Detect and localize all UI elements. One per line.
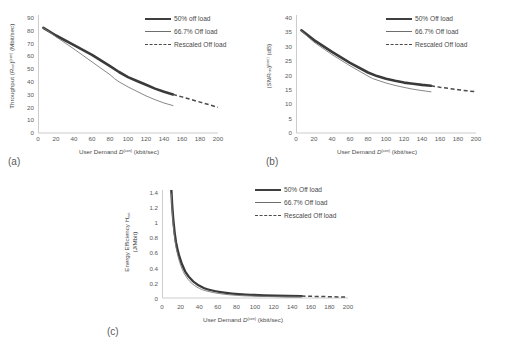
panel-b: (SNRnet)(con) (dB) 40 35 30 25 20 15 10 … [258,0,510,175]
legend-label: Rescaled Off load [174,41,226,48]
legend-item: 66.7% Off load [386,25,467,38]
panel-a: Throughput (Rnet)(con) (Mbit/sec) 90 80 … [0,0,250,175]
panel-b-y-axis-label: (SNRnet)(con) (dB) [265,26,273,106]
legend-item: 50% Off load [386,12,467,25]
panel-b-x-axis-label: User Demand D(con) (kbit/sec) [272,148,482,155]
panel-a-x-axis-label: User Demand D(con) (kbit/sec) [14,148,224,155]
legend-item: 66.7% Off load [255,196,336,209]
panel-a-legend: 50% off load 66.7% Off load Rescaled Off… [145,12,226,51]
panel-b-legend: 50% Off load 66.7% Off load Rescaled Off… [386,12,467,51]
panel-a-y-axis-label: Throughput (Rnet)(con) (Mbit/sec) [8,16,16,116]
legend-label: 66.7% Off load [415,28,459,35]
legend-key-thick-solid-icon [255,189,281,191]
legend-label: 66.7% Off load [174,28,218,35]
legend-key-thin-solid-icon [386,31,412,32]
panel-b-label: (b) [266,156,278,167]
legend-label: 50% Off load [284,186,322,193]
panel-c-series-rescaled-off-load [302,296,348,297]
legend-item: Rescaled Off load [145,38,226,51]
legend-item: 50% off load [145,12,226,25]
panel-a-label: (a) [8,156,20,167]
legend-label: Rescaled Off load [415,41,467,48]
legend-key-thin-solid-icon [255,202,281,203]
legend-label: Rescaled Off load [284,212,336,219]
legend-key-dashed-icon [255,215,281,216]
legend-label: 66.7% Off load [284,199,328,206]
legend-label: 50% off load [174,15,211,22]
panel-b-series-rescaled-off-load [431,86,476,92]
legend-label: 50% Off load [415,15,453,22]
panel-a-series-rescaled-off-load [173,94,218,107]
panel-c-y-axis-label: Energy Efficiency Hnet(J/Mbit) [123,198,139,286]
legend-key-thick-solid-icon [145,18,171,20]
panel-c: Energy Efficiency Hnet(J/Mbit) 1.4 1.2 1… [112,178,412,359]
legend-item: Rescaled Off load [386,38,467,51]
legend-item: 50% Off load [255,183,336,196]
legend-item: Rescaled Off load [255,209,336,222]
legend-key-thick-solid-icon [386,18,412,20]
panel-c-x-axis-label: User Demand D(con) (kbit/sec) [138,316,348,323]
panel-c-label: (c) [107,326,119,337]
legend-key-dashed-icon [145,44,171,45]
legend-key-thin-solid-icon [145,31,171,32]
legend-item: 66.7% Off load [145,25,226,38]
panel-c-legend: 50% Off load 66.7% Off load Rescaled Off… [255,183,336,222]
legend-key-dashed-icon [386,44,412,45]
